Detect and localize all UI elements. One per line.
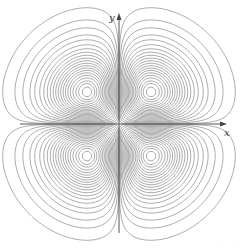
contour-plot	[0, 0, 241, 248]
x-axis-label: x	[224, 127, 230, 138]
y-axis-arrowhead-icon	[117, 13, 122, 20]
x-axis-arrowhead-icon	[220, 122, 227, 127]
y-axis-label: y	[109, 12, 115, 23]
corner-mark: · ·	[222, 238, 237, 245]
